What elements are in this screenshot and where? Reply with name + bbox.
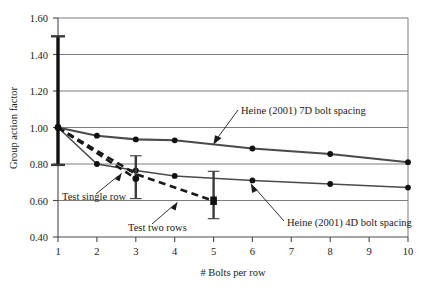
data-point	[132, 175, 139, 182]
y-tick-label: 0.60	[30, 196, 48, 207]
data-point	[405, 185, 411, 191]
annotation-label: Test single row	[62, 191, 126, 202]
x-axis-title: # Bolts per row	[200, 267, 265, 278]
x-tick-label: 10	[403, 246, 414, 257]
data-point	[94, 161, 100, 167]
data-point	[210, 197, 217, 206]
x-tick-label: 4	[172, 246, 178, 257]
data-point	[250, 178, 256, 184]
annotation-label: Test two rows	[128, 222, 187, 233]
data-point	[327, 181, 333, 187]
x-tick-label: 2	[94, 246, 99, 257]
data-point	[327, 151, 333, 157]
y-tick-label: 1.60	[30, 13, 48, 24]
data-point	[405, 159, 411, 165]
y-tick-label: 0.80	[30, 159, 48, 170]
x-tick-label: 6	[250, 246, 255, 257]
data-point	[55, 124, 62, 131]
group-action-factor-chart: 1.60 1.40 1.20 1.00 0.80 0.60 0.40 1 2 3…	[0, 0, 422, 288]
y-tick-label: 1.20	[30, 86, 48, 97]
annotation-label: Heine (2001) 7D bolt spacing	[241, 105, 367, 117]
annotation-label: Heine (2001) 4D bolt spacing	[287, 217, 413, 229]
x-tick-label: 9	[366, 246, 371, 257]
chart-container: 1.60 1.40 1.20 1.00 0.80 0.60 0.40 1 2 3…	[0, 0, 422, 288]
y-tick-label: 1.40	[30, 50, 48, 61]
x-tick-label: 3	[133, 246, 138, 257]
y-tick-label: 0.40	[30, 232, 48, 243]
y-axis-title: Group action factor	[8, 86, 19, 169]
data-point	[133, 137, 139, 143]
data-point	[172, 137, 178, 143]
data-point	[250, 146, 256, 152]
y-tick-label: 1.00	[30, 123, 48, 134]
data-point	[172, 173, 178, 179]
x-tick-label: 8	[328, 246, 333, 257]
x-tick-label: 5	[211, 246, 216, 257]
x-tick-label: 1	[55, 246, 60, 257]
x-tick-label: 7	[289, 246, 294, 257]
data-point	[94, 133, 100, 139]
